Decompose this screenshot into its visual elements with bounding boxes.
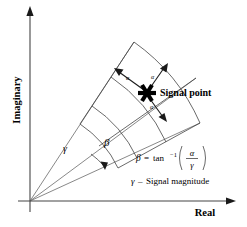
signal-point-label: Signal point xyxy=(160,87,212,98)
caption-gamma-symbol: γ xyxy=(131,176,135,186)
alpha-label-downright: α xyxy=(150,104,154,110)
alpha-label-upright: α xyxy=(151,74,155,80)
formula-denominator-gamma: γ xyxy=(190,160,194,170)
formula-numerator-alpha: α xyxy=(190,148,195,158)
signal-point-diagram: Imaginary Real β xyxy=(0,0,247,227)
alpha-arrow-upleft-line xyxy=(119,72,144,90)
sector-edge-upper xyxy=(80,42,134,124)
caption-text: Signal magnitude xyxy=(146,176,209,186)
formula-beta-symbol: β xyxy=(135,153,141,163)
gamma-caption-group: γ – Signal magnitude xyxy=(131,176,209,186)
formula-exponent: −1 xyxy=(170,151,177,158)
formula-paren-left xyxy=(180,146,183,170)
alpha-arrow-downright-head xyxy=(159,113,168,122)
imaginary-axis-arrowhead xyxy=(26,6,33,16)
formula-paren-right xyxy=(203,146,206,170)
formula-equals-sign: = xyxy=(144,153,149,163)
formula-tan-function: tan xyxy=(153,153,164,163)
beta-symbol-label: β xyxy=(103,136,110,148)
imaginary-axis-label: Imaginary xyxy=(11,76,22,124)
caption-dash: – xyxy=(137,176,143,186)
sector-grid-group xyxy=(80,42,200,168)
real-axis-label: Real xyxy=(195,207,215,218)
real-axis-arrowhead xyxy=(226,197,236,204)
beta-formula-group: β = tan −1 α γ xyxy=(135,146,206,170)
